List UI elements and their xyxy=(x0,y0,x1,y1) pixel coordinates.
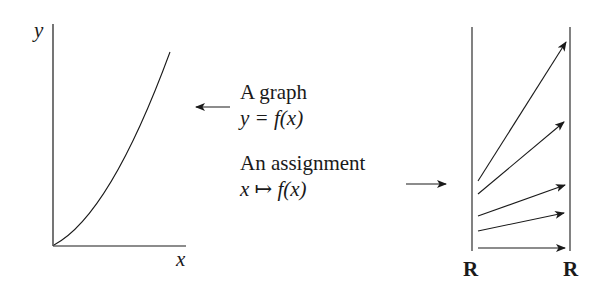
mapping-arrow-2 xyxy=(478,122,564,194)
assignment-title: An assignment xyxy=(240,151,365,175)
graph-title: A graph xyxy=(240,80,307,104)
mapping-arrow-4 xyxy=(478,213,564,231)
mapping-arrow-1 xyxy=(478,42,566,181)
y-axis-label: y xyxy=(34,18,43,42)
assignment-formula: x ↦ f(x) xyxy=(240,177,307,201)
codomain-label: R xyxy=(563,257,578,281)
function-curve xyxy=(54,52,170,245)
diagram-canvas xyxy=(0,0,607,289)
graph-axes xyxy=(53,24,186,246)
x-axis-label: x xyxy=(176,247,185,271)
domain-label: R xyxy=(463,257,478,281)
mapping-diagram xyxy=(472,27,570,251)
graph-formula: y = f(x) xyxy=(240,106,303,130)
mapping-arrow-3 xyxy=(478,185,565,216)
